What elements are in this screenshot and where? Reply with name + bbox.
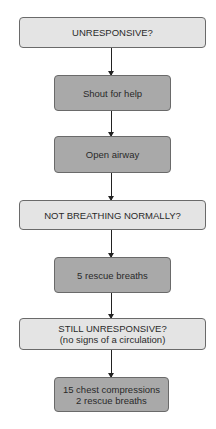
arrow-1 <box>111 48 112 75</box>
node-label-line2: (no signs of a circulation) <box>60 334 166 345</box>
arrow-4 <box>111 230 112 257</box>
node-label: 5 rescue breaths <box>77 270 148 281</box>
node-rescue-breaths: 5 rescue breaths <box>54 257 171 293</box>
node-label-line1: 15 chest compressions <box>63 384 160 395</box>
node-label: UNRESPONSIVE? <box>72 27 153 38</box>
node-label-line2: 2 rescue breaths <box>76 395 147 406</box>
arrow-2 <box>111 111 112 136</box>
arrow-5 <box>111 293 112 318</box>
arrow-3 <box>111 173 112 200</box>
node-unresponsive: UNRESPONSIVE? <box>19 17 206 48</box>
arrow-6 <box>111 350 112 377</box>
node-label: Open airway <box>86 149 139 160</box>
node-not-breathing: NOT BREATHING NORMALLY? <box>19 200 206 230</box>
node-open-airway: Open airway <box>54 136 171 173</box>
node-label-line1: STILL UNRESPONSIVE? <box>58 323 166 334</box>
node-chest-compressions: 15 chest compressions 2 rescue breaths <box>54 377 169 412</box>
node-still-unresponsive: STILL UNRESPONSIVE? (no signs of a circu… <box>19 318 206 350</box>
node-label: Shout for help <box>83 88 142 99</box>
node-shout-for-help: Shout for help <box>54 75 171 111</box>
node-label: NOT BREATHING NORMALLY? <box>44 210 181 221</box>
